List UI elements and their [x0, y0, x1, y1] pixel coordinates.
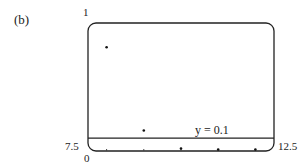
reference-line-label: y = 0.1: [195, 123, 229, 138]
data-point: [180, 147, 183, 150]
plot-frame: [88, 23, 274, 151]
data-points: [105, 46, 256, 151]
data-point: [254, 148, 257, 151]
data-point: [143, 129, 146, 132]
data-point: [105, 46, 108, 49]
data-point: [217, 148, 220, 151]
plot-area: [0, 0, 307, 164]
